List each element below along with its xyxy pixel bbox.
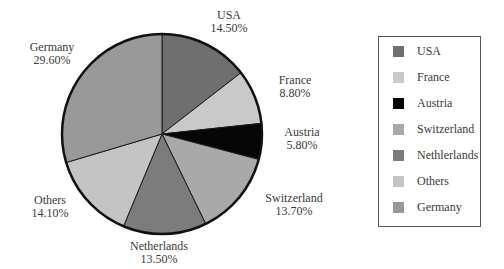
legend-swatch-switzerland — [393, 124, 404, 135]
label-switzerland: Switzerland 13.70% — [265, 192, 322, 218]
label-others-pct: 14.10% — [32, 207, 69, 220]
legend-swatch-usa — [393, 46, 404, 57]
label-others: Others 14.10% — [32, 194, 69, 220]
label-austria-pct: 5.80% — [284, 139, 319, 152]
legend-item-switzerland: Switzerland — [379, 121, 474, 137]
legend-item-germany: Germany — [379, 199, 462, 215]
legend-label-germany: Germany — [417, 200, 462, 215]
legend-swatch-austria — [393, 98, 404, 109]
label-germany: Germany 29.60% — [30, 41, 75, 67]
label-usa-pct: 14.50% — [211, 22, 248, 35]
label-austria: Austria 5.80% — [284, 126, 319, 152]
legend-label-switzerland: Switzerland — [417, 122, 474, 137]
legend-label-austria: Austria — [417, 96, 452, 111]
legend-swatch-germany — [393, 202, 404, 213]
label-france: France 8.80% — [279, 74, 312, 100]
label-netherlands: Netherlands 13.50% — [130, 240, 188, 266]
legend-label-usa: USA — [417, 44, 441, 59]
label-usa: USA 14.50% — [211, 9, 248, 35]
legend-item-usa: USA — [379, 43, 441, 59]
label-germany-pct: 29.60% — [30, 54, 75, 67]
legend-item-austria: Austria — [379, 95, 452, 111]
legend-item-others: Others — [379, 173, 449, 189]
legend-label-netherlands: Nethlerlands — [417, 148, 478, 163]
legend-label-france: France — [417, 70, 450, 85]
legend: USA France Austria Switzerland Nethlerla… — [378, 36, 481, 227]
label-switzerland-pct: 13.70% — [265, 205, 322, 218]
legend-swatch-france — [393, 72, 404, 83]
legend-item-france: France — [379, 69, 450, 85]
label-france-pct: 8.80% — [279, 87, 312, 100]
legend-swatch-others — [393, 176, 404, 187]
legend-item-netherlands: Nethlerlands — [379, 147, 478, 163]
legend-label-others: Others — [417, 174, 449, 189]
label-netherlands-pct: 13.50% — [130, 253, 188, 266]
legend-swatch-netherlands — [393, 150, 404, 161]
